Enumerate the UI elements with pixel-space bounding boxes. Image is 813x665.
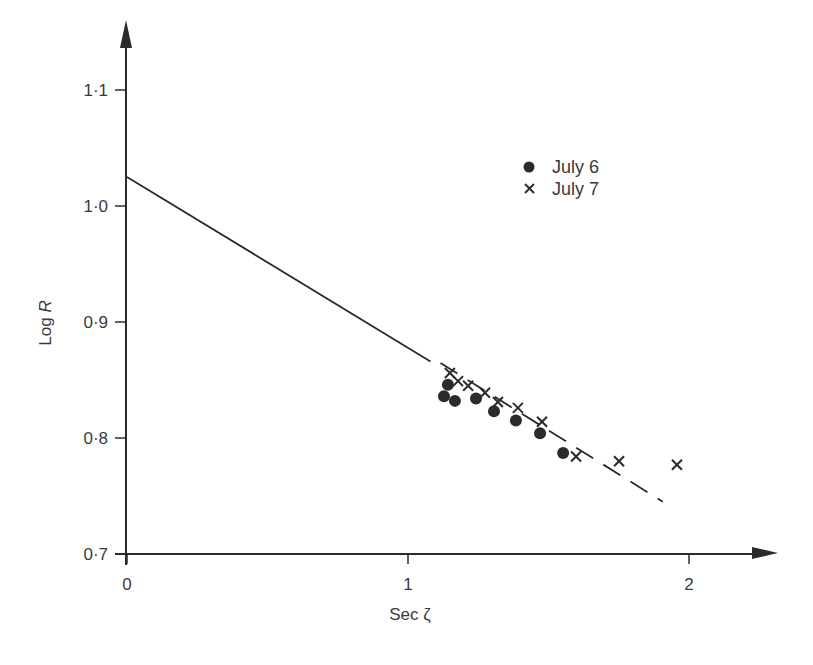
dot-marker-icon <box>438 390 450 402</box>
y-axis-title: Log R <box>36 300 55 345</box>
legend-label-july7: July 7 <box>552 179 599 199</box>
dot-marker-icon <box>470 393 482 405</box>
x-tick-label: 1 <box>403 575 412 594</box>
cross-marker-icon <box>513 403 523 413</box>
legend-label-july6: July 6 <box>552 157 599 177</box>
chart: 0120·70·80·91·01·1 July 6 July 7 Sec ζ L… <box>0 0 813 665</box>
legend: July 6 July 7 <box>524 157 600 199</box>
y-tick-label: 1·0 <box>83 197 108 216</box>
y-tick-label: 0·8 <box>83 429 108 448</box>
dot-marker-icon <box>510 415 522 427</box>
x-tick-label: 2 <box>684 575 693 594</box>
cross-marker-icon <box>453 376 463 386</box>
legend-cross-icon <box>525 184 534 193</box>
cross-marker-icon <box>480 388 490 398</box>
y-tick-label: 0·9 <box>83 313 108 332</box>
cross-marker-icon <box>463 381 473 391</box>
y-axis-arrow-icon <box>120 20 132 48</box>
dot-marker-icon <box>449 395 461 407</box>
cross-marker-icon <box>614 456 624 466</box>
legend-dot-icon <box>524 162 535 173</box>
fit-line-dashed <box>440 363 662 502</box>
cross-marker-icon <box>571 452 581 462</box>
cross-marker-icon <box>672 460 682 470</box>
y-tick-label: 1·1 <box>83 81 108 100</box>
x-axis-title: Sec ζ <box>389 605 431 624</box>
x-tick-label: 0 <box>122 575 131 594</box>
fit-line-solid <box>127 177 430 361</box>
dot-marker-icon <box>534 427 546 439</box>
cross-marker-icon <box>537 417 547 427</box>
dot-marker-icon <box>557 447 569 459</box>
y-tick-label: 0·7 <box>83 545 108 564</box>
axes: 0120·70·80·91·01·1 <box>83 20 778 594</box>
dot-marker-icon <box>442 379 454 391</box>
x-axis-arrow-icon <box>752 547 778 559</box>
fit-line <box>127 177 663 502</box>
